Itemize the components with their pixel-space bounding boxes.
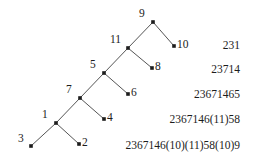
tree-edge bbox=[128, 22, 153, 48]
tree-edge bbox=[104, 73, 128, 94]
tree-graphic bbox=[0, 0, 258, 161]
tree-node-label-11: 11 bbox=[110, 34, 121, 46]
tree-node-label-3: 3 bbox=[18, 133, 24, 145]
tree-edge bbox=[80, 73, 104, 98]
tree-node-dot[interactable] bbox=[150, 66, 154, 70]
tree-node-dot[interactable] bbox=[151, 20, 155, 24]
tree-node-label-1: 1 bbox=[42, 109, 48, 121]
tree-edge bbox=[56, 123, 79, 144]
tree-edge bbox=[31, 123, 56, 146]
tree-node-dot[interactable] bbox=[54, 121, 58, 125]
tree-edge bbox=[80, 98, 104, 119]
tree-node-label-5: 5 bbox=[90, 59, 96, 71]
tree-node-label-7: 7 bbox=[66, 84, 72, 96]
tree-edges bbox=[31, 22, 174, 146]
code-line: 2367146(11)58 bbox=[170, 113, 240, 125]
tree-node-label-6: 6 bbox=[131, 87, 137, 99]
tree-node-dot[interactable] bbox=[126, 92, 130, 96]
code-line: 231 bbox=[223, 39, 240, 51]
tree-node-dot[interactable] bbox=[29, 144, 33, 148]
code-line: 2367146(10)(11)58(10)9 bbox=[125, 139, 240, 151]
tree-nodes bbox=[29, 20, 176, 148]
code-line: 23714 bbox=[211, 63, 240, 75]
tree-edge bbox=[153, 22, 174, 46]
tree-edge bbox=[56, 98, 80, 123]
tree-edge bbox=[128, 48, 152, 68]
tree-node-dot[interactable] bbox=[77, 142, 81, 146]
tree-node-label-2: 2 bbox=[82, 137, 88, 149]
tree-figure: 9111058761432 23123714236714652367146(11… bbox=[0, 0, 258, 161]
tree-node-label-8: 8 bbox=[155, 61, 161, 73]
tree-node-label-4: 4 bbox=[107, 112, 113, 124]
tree-node-dot[interactable] bbox=[102, 71, 106, 75]
tree-node-dot[interactable] bbox=[126, 46, 130, 50]
tree-node-label-9: 9 bbox=[139, 8, 145, 20]
tree-node-dot[interactable] bbox=[172, 44, 176, 48]
tree-edge bbox=[104, 48, 128, 73]
code-line: 23671465 bbox=[194, 88, 240, 100]
tree-node-dot[interactable] bbox=[102, 117, 106, 121]
tree-node-dot[interactable] bbox=[78, 96, 82, 100]
tree-node-label-10: 10 bbox=[177, 39, 189, 51]
